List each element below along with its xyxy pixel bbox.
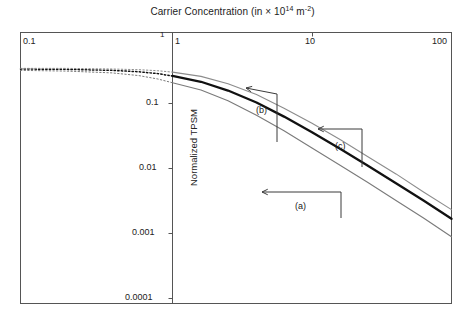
chart-plot-area <box>0 0 465 319</box>
curve-label-c: (c) <box>335 141 346 151</box>
x-tick-label-0.1: 0.1 <box>23 36 36 46</box>
y-tick-label-0.01: 0.01 <box>139 162 157 172</box>
y-tick-label-0.0001: 0.0001 <box>125 292 153 302</box>
chart-figure: Carrier Concentration (in × 1014 m-2) 0.… <box>0 0 465 319</box>
series-c-right <box>173 72 452 210</box>
x-axis-ticks <box>21 33 452 37</box>
curve-label-a: (a) <box>295 201 306 211</box>
x-tick-label-100: 100 <box>432 36 447 46</box>
curve-label-b: (b) <box>256 105 267 115</box>
x-tick-label-1-left: 1 <box>160 30 164 39</box>
y-tick-label-0.001: 0.001 <box>132 227 155 237</box>
y-tick-label-0.1: 0.1 <box>146 97 159 107</box>
x-tick-label-10: 10 <box>305 36 315 46</box>
y-axis-ticks <box>169 104 173 299</box>
chart-series-group <box>21 68 452 236</box>
x-tick-label-1-right: 1 <box>175 36 180 46</box>
series-a-right <box>173 83 452 237</box>
chart-y-axis-title: Normalized TPSM <box>188 109 199 186</box>
